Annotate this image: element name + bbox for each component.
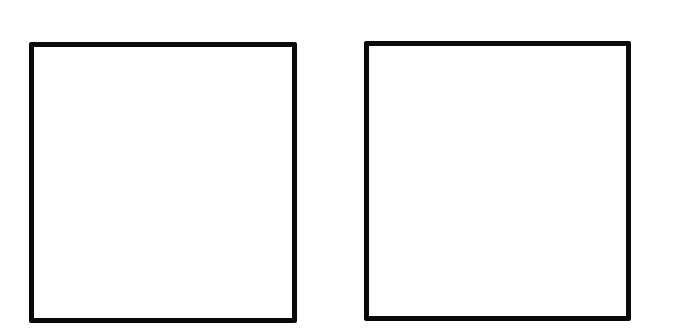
right-empty-box [364,41,631,321]
left-empty-box [29,42,297,323]
